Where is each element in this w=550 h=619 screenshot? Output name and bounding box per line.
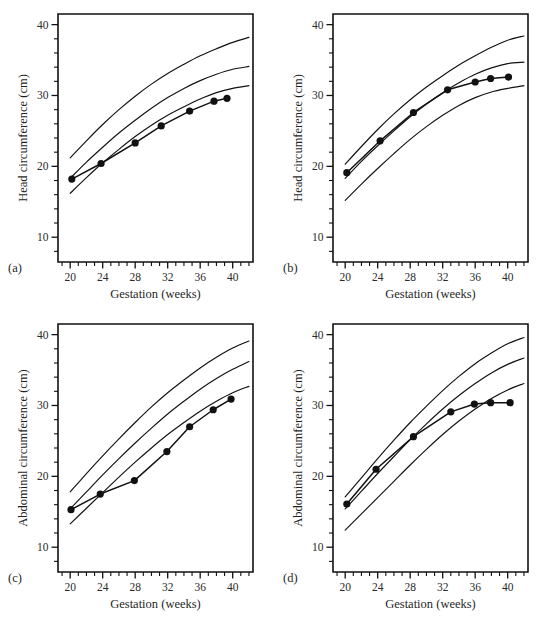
x-tick-label: 24 (372, 581, 384, 593)
y-axis-title: Head circumference (cm) (291, 74, 305, 202)
y-tick-label: 40 (312, 19, 324, 31)
x-axis-c: 202428323640 (62, 572, 249, 593)
data-point (68, 175, 75, 182)
x-axis-title: Gestation (weeks) (110, 287, 201, 301)
centile-curve-1 (345, 36, 524, 164)
panel-c: 10203040202428323640Gestation (weeks)Abd… (0, 310, 275, 619)
centile-curve-3 (345, 86, 524, 201)
plot-frame-a (58, 14, 253, 262)
data-point (377, 137, 384, 144)
x-tick-label: 28 (404, 581, 416, 593)
centile-curve-3 (345, 384, 524, 531)
y-tick-label: 30 (312, 89, 324, 101)
y-tick-label: 10 (37, 231, 49, 243)
y-tick-label: 30 (312, 399, 324, 411)
x-tick-label: 40 (227, 271, 239, 283)
x-tick-label: 40 (502, 271, 514, 283)
measurement-line (72, 98, 227, 179)
y-tick-label: 20 (37, 160, 49, 172)
centile-curve-2 (70, 66, 249, 178)
figure-fetal-growth-charts: 10203040202428323640Gestation (weeks)Hea… (0, 0, 550, 619)
x-tick-label: 32 (162, 271, 174, 283)
y-axis-a: 10203040 (37, 19, 58, 252)
x-tick-label: 20 (339, 271, 351, 283)
data-point (158, 122, 165, 129)
data-point (343, 169, 350, 176)
x-tick-label: 40 (502, 581, 514, 593)
centile-curve-3 (70, 86, 249, 194)
x-tick-label: 24 (97, 271, 109, 283)
measurement-line (347, 403, 510, 504)
centile-curve-1 (70, 37, 249, 157)
data-point (186, 423, 193, 430)
panel-label-b: (b) (283, 261, 298, 275)
x-tick-label: 20 (339, 581, 351, 593)
x-axis-title: Gestation (weeks) (385, 287, 476, 301)
y-axis-b: 10203040 (312, 19, 333, 252)
data-point (131, 477, 138, 484)
y-tick-label: 30 (37, 89, 49, 101)
panel-label-d: (d) (283, 571, 298, 585)
y-tick-label: 40 (312, 329, 324, 341)
y-tick-label: 40 (37, 19, 49, 31)
data-point (223, 95, 230, 102)
y-tick-label: 20 (37, 470, 49, 482)
x-axis-a: 202428323640 (62, 262, 249, 283)
y-tick-label: 10 (37, 541, 49, 553)
data-point (410, 433, 417, 440)
plot-frame-c (58, 324, 253, 572)
x-tick-label: 28 (129, 271, 141, 283)
y-tick-label: 30 (37, 399, 49, 411)
x-tick-label: 36 (469, 581, 481, 593)
data-point (343, 500, 350, 507)
x-axis-d: 202428323640 (337, 572, 524, 593)
x-tick-label: 28 (129, 581, 141, 593)
plot-frame-b (333, 14, 528, 262)
x-axis-b: 202428323640 (337, 262, 524, 283)
centile-curve-2 (70, 362, 249, 509)
y-tick-label: 40 (37, 329, 49, 341)
x-tick-label: 20 (64, 581, 76, 593)
x-tick-label: 40 (227, 581, 239, 593)
y-tick-label: 10 (312, 231, 324, 243)
data-point (471, 400, 478, 407)
data-point (487, 399, 494, 406)
centile-curve-2 (345, 358, 524, 509)
panel-label-a: (a) (8, 261, 22, 275)
panel-label-c: (c) (8, 571, 22, 585)
x-axis-title: Gestation (weeks) (385, 597, 476, 611)
centile-curve-1 (70, 341, 249, 492)
y-tick-label: 20 (312, 160, 324, 172)
y-tick-label: 10 (312, 541, 324, 553)
data-point (447, 408, 454, 415)
x-tick-label: 36 (194, 271, 206, 283)
data-point (67, 506, 74, 513)
data-point (410, 109, 417, 116)
data-point (487, 75, 494, 82)
y-axis-title: Abdominal circumference (cm) (16, 369, 30, 527)
measurement-line (71, 399, 231, 510)
y-tick-label: 20 (312, 470, 324, 482)
data-point (227, 396, 234, 403)
data-point (210, 98, 217, 105)
data-point (507, 399, 514, 406)
panel-d: 10203040202428323640Gestation (weeks)Abd… (275, 310, 550, 619)
data-point (505, 73, 512, 80)
y-axis-d: 10203040 (312, 329, 333, 562)
x-tick-label: 32 (437, 581, 449, 593)
y-axis-title: Abdominal circumference (cm) (291, 369, 305, 527)
data-point (186, 107, 193, 114)
data-point (372, 466, 379, 473)
x-axis-title: Gestation (weeks) (110, 597, 201, 611)
data-point (444, 86, 451, 93)
x-tick-label: 20 (64, 271, 76, 283)
panel-a: 10203040202428323640Gestation (weeks)Hea… (0, 0, 275, 309)
data-point (210, 406, 217, 413)
x-tick-label: 24 (372, 271, 384, 283)
plot-frame-d (333, 324, 528, 572)
y-axis-title: Head circumference (cm) (16, 74, 30, 202)
x-tick-label: 28 (404, 271, 416, 283)
measurement-line (347, 77, 509, 173)
data-point (97, 160, 104, 167)
centile-curve-3 (70, 386, 249, 523)
